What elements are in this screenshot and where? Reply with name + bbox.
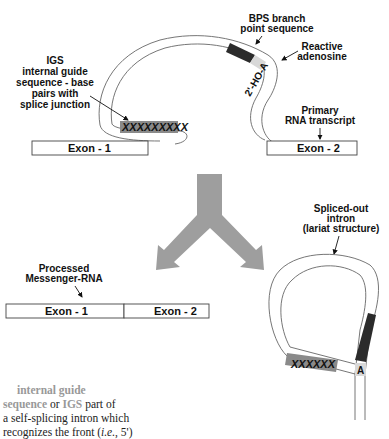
svg-text:Messenger-RNA: Messenger-RNA xyxy=(25,273,102,284)
processed-arrow-icon xyxy=(75,286,82,297)
svg-text:Exon - 1: Exon - 1 xyxy=(68,142,111,154)
definition-rest: part of xyxy=(82,398,115,410)
svg-text:RNA transcript: RNA transcript xyxy=(285,115,356,126)
definition-line-4-italic: i.e. xyxy=(101,426,115,438)
svg-text:pairs with: pairs with xyxy=(32,88,79,99)
svg-text:internal guide: internal guide xyxy=(22,66,88,77)
processed-mrna-label: Processed Messenger-RNA xyxy=(25,263,102,284)
processed-exon-2: Exon - 2 xyxy=(154,305,197,317)
definition-term-2: sequence xyxy=(3,398,47,410)
primary-transcript-label: Primary RNA transcript xyxy=(285,105,356,126)
reactive-arrow-icon xyxy=(282,51,298,60)
svg-text:adenosine: adenosine xyxy=(297,51,347,62)
primary-exon-2: Exon - 2 xyxy=(267,141,357,155)
lariat-a-label: A xyxy=(357,365,364,376)
definition-or: or xyxy=(47,398,62,410)
bps-label: BPS branch point sequence xyxy=(240,13,314,34)
lariat-label: Spliced-out intron (lariat structure) xyxy=(303,203,380,234)
definition-line-4a: recognizes the front ( xyxy=(3,426,101,438)
definition-line-3: a self-splicing intron which xyxy=(3,411,153,425)
processed-mrna: Exon - 1 Exon - 2 xyxy=(6,304,209,318)
svg-text:IGS: IGS xyxy=(46,55,64,66)
igs-arrow-icon xyxy=(90,96,128,120)
definition-term-3: IGS xyxy=(62,398,82,410)
svg-text:(lariat structure): (lariat structure) xyxy=(303,223,380,234)
svg-text:sequence - base: sequence - base xyxy=(16,77,94,88)
definition-term-1: internal guide xyxy=(17,384,86,396)
definition-line-4b: , 5') xyxy=(115,426,132,438)
reactive-adenosine-label: Reactive adenosine xyxy=(297,41,347,62)
igs-marks: XXXXXXXXX xyxy=(121,121,189,133)
igs-label: IGS internal guide sequence - base pairs… xyxy=(16,55,94,110)
svg-text:Exon - 2: Exon - 2 xyxy=(297,142,340,154)
svg-text:splice junction: splice junction xyxy=(20,99,90,110)
lariat-bps-block xyxy=(355,313,376,362)
lariat-arrow-icon xyxy=(334,236,339,254)
split-arrow-icon xyxy=(156,174,264,270)
primary-exon-1: Exon - 1 xyxy=(32,141,148,155)
lariat-igs-marks: XXXXXX xyxy=(290,358,336,370)
definition-text: internal guide sequence or IGS part of a… xyxy=(3,383,153,439)
processed-exon-1: Exon - 1 xyxy=(45,305,88,317)
svg-text:point sequence: point sequence xyxy=(240,23,314,34)
bps-arrow-icon xyxy=(256,36,262,44)
